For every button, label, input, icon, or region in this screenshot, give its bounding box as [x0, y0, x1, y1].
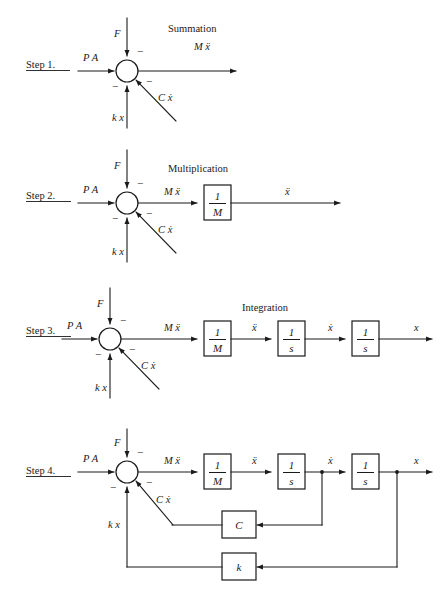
step-2-summing-junction: [116, 192, 138, 214]
step-4-pressure-label: P A: [82, 453, 99, 464]
step-2-section-title: Multiplication: [168, 163, 229, 174]
step-3-second-integrator-numerator: 1: [363, 326, 369, 338]
step-3-inverse-mass-denominator: M: [212, 342, 223, 354]
step-4-first-integrator-denominator: s: [289, 475, 293, 487]
step-1-output-label: M ẍ: [193, 41, 210, 52]
step-3-pressure-label: P A: [66, 320, 83, 331]
step-2-inverse-mass-numerator: 1: [215, 190, 221, 202]
step-4-first-integrator-numerator: 1: [289, 459, 295, 471]
step-2-label: Step 2.: [26, 190, 55, 201]
step-2-force-sign: −: [137, 177, 143, 189]
step-3-mass-accel-label: M ẍ: [163, 322, 180, 333]
step-3-damping-label: C ẋ: [141, 360, 156, 371]
step-4-velocity-label: ẋ: [327, 455, 333, 466]
step-3-damping-sign: −: [129, 343, 135, 355]
step-4-inverse-mass-numerator: 1: [215, 459, 221, 471]
step-2-spring-label: k x: [112, 246, 124, 257]
step-1-group: Step 1. Summation F − P A k x − C ẋ − M …: [26, 18, 236, 128]
step-3-force-sign: −: [120, 314, 126, 326]
step-2-damping-label: C ẋ: [158, 224, 173, 235]
step-4-label: Step 4.: [26, 465, 55, 476]
step-2-spring-sign: −: [112, 212, 118, 224]
step-4-damping-gain-block: C: [222, 511, 256, 538]
step-4-second-integrator-block: 1 s: [352, 454, 379, 489]
step-2-accel-output-label: ẍ: [284, 186, 290, 197]
step-1-spring-label: k x: [112, 112, 124, 123]
step-3-spring-sign: −: [95, 348, 101, 360]
step-4-damping-label: C ẋ: [156, 494, 171, 505]
step-2-pressure-label: P A: [82, 184, 99, 195]
step-3-second-integrator-block: 1 s: [352, 321, 379, 356]
step-3-section-title: Integration: [242, 302, 289, 313]
step-3-spring-label: k x: [95, 382, 107, 393]
step-3-accel-label: ẍ: [251, 322, 257, 333]
step-1-summing-junction: [116, 60, 138, 82]
step-4-inverse-mass-block: 1 M: [204, 454, 231, 489]
step-1-force-sign: −: [137, 45, 143, 57]
step-4-damping-gain-label: C: [235, 519, 243, 531]
step-1-spring-sign: −: [112, 80, 118, 92]
step-1-section-title: Summation: [168, 23, 217, 34]
step-4-spring-label: k x: [108, 519, 120, 530]
step-2-group: Step 2. Multiplication F − P A k x − C ẋ…: [26, 150, 340, 262]
step-4-inverse-mass-denominator: M: [212, 475, 223, 487]
step-4-mass-accel-label: M ẍ: [163, 455, 180, 466]
step-3-inverse-mass-numerator: 1: [215, 326, 221, 338]
step-3-force-label: F: [96, 298, 104, 309]
step-2-mass-accel-label: M ẍ: [163, 186, 180, 197]
step-1-force-label: F: [113, 28, 121, 39]
step-4-accel-label: ẍ: [251, 455, 257, 466]
step-4-spring-sign: −: [110, 481, 116, 493]
block-diagram-page: Step 1. Summation F − P A k x − C ẋ − M …: [0, 0, 446, 595]
step-1-damping-label: C ẋ: [158, 92, 173, 103]
step-3-summing-junction: [99, 328, 121, 350]
step-3-first-integrator-denominator: s: [289, 342, 293, 354]
step-4-spring-gain-block: k: [222, 553, 256, 580]
step-4-force-label: F: [113, 437, 121, 448]
step-1-pressure-label: P A: [82, 52, 99, 63]
step-3-first-integrator-numerator: 1: [289, 326, 295, 338]
step-3-second-integrator-denominator: s: [363, 342, 367, 354]
step-4-damping-sign: −: [146, 476, 152, 488]
step-2-force-label: F: [113, 160, 121, 171]
step-3-velocity-label: ẋ: [327, 322, 333, 333]
step-1-label: Step 1.: [26, 59, 55, 70]
step-4-second-integrator-denominator: s: [363, 475, 367, 487]
step-3-first-integrator-block: 1 s: [278, 321, 305, 356]
step-3-group: Step 3. Integration F − P A k x − C ẋ − …: [26, 288, 432, 398]
step-4-position-label: x: [413, 455, 419, 466]
step-4-group: Step 4. F − P A k x − C ẋ − M ẍ 1 M: [26, 429, 432, 580]
step-2-damping-sign: −: [146, 207, 152, 219]
step-4-velocity-tap-node: [320, 470, 324, 474]
step-3-label: Step 3.: [26, 325, 55, 336]
step-3-inverse-mass-block: 1 M: [204, 321, 231, 356]
step-3-position-label: x: [413, 322, 419, 333]
step-1-damping-sign: −: [146, 75, 152, 87]
step-4-summing-junction: [116, 461, 138, 483]
step-2-inverse-mass-block: 1 M: [204, 185, 231, 220]
block-diagram-svg: Step 1. Summation F − P A k x − C ẋ − M …: [0, 0, 446, 595]
step-2-inverse-mass-denominator: M: [212, 206, 223, 218]
step-4-force-sign: −: [137, 446, 143, 458]
step-4-second-integrator-numerator: 1: [363, 459, 369, 471]
step-4-position-tap-node: [395, 470, 399, 474]
step-4-first-integrator-block: 1 s: [278, 454, 305, 489]
